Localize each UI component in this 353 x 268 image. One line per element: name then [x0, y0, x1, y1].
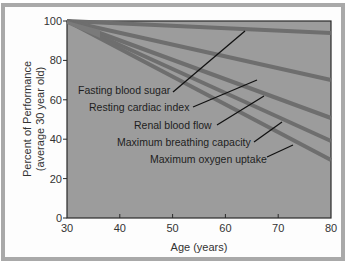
x-tick-80: 80: [325, 222, 337, 234]
y-axis-subtitle: (average 30 year old): [34, 67, 46, 172]
label-maximum-breathing-capacity: Maximum breathing capacity: [117, 136, 251, 148]
label-maximum-oxygen-uptake: Maximum oxygen uptake: [150, 153, 267, 165]
x-tick-40: 40: [114, 222, 126, 234]
y-tick-80: 80: [50, 54, 62, 66]
x-tick-30: 30: [61, 222, 73, 234]
x-tick-70: 70: [272, 222, 284, 234]
x-tick-labels: 30 40 50 60 70 80: [61, 222, 337, 234]
x-tick-50: 50: [166, 222, 178, 234]
y-tick-labels: 100 80 60 40 20 0: [44, 15, 62, 224]
label-resting-cardiac-index: Resting cardiac index: [89, 101, 190, 113]
x-tick-60: 60: [219, 222, 231, 234]
y-tick-20: 20: [50, 173, 62, 185]
line-chart: Fasting blood sugar Resting cardiac inde…: [0, 0, 353, 268]
y-tick-100: 100: [44, 15, 62, 27]
x-axis-title: Age (years): [171, 241, 228, 253]
y-tick-60: 60: [50, 94, 62, 106]
y-axis-title: Percent of Performance: [21, 61, 33, 177]
label-renal-blood-flow: Renal blood flow: [134, 119, 212, 131]
y-tick-40: 40: [50, 133, 62, 145]
label-fasting-blood-sugar: Fasting blood sugar: [78, 84, 171, 96]
